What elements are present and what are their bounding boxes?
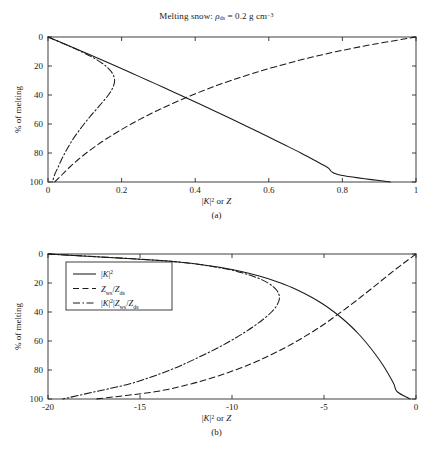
series-line-1 [55,37,416,182]
svg-text:1: 1 [414,185,419,195]
svg-text:-5: -5 [320,402,328,412]
svg-text:0: 0 [46,185,51,195]
svg-text:0: 0 [414,402,419,412]
svg-text:40: 40 [34,90,44,100]
panel-b-caption: (b) [0,427,433,437]
svg-text:60: 60 [34,119,44,129]
series-line-0 [48,37,390,182]
svg-text:40: 40 [34,307,44,317]
svg-text:20: 20 [34,61,44,71]
svg-text:0: 0 [39,249,44,259]
svg-text:-20: -20 [42,402,54,412]
panel-b-plot: -20-15-10-50020406080100% of melting|K|2… [0,232,433,459]
panel-a-caption: (a) [0,210,433,220]
series-line-2 [48,37,115,182]
svg-text:60: 60 [34,336,44,346]
panel-a: Melting snow: ρds = 0.2 g cm−3 00.20.40.… [0,0,433,232]
svg-text:80: 80 [34,148,44,158]
svg-text:0.4: 0.4 [190,185,202,195]
svg-text:0.2: 0.2 [116,185,127,195]
legend: |K|2Zws/Zds|K|2|Zws/Zds [66,262,172,310]
svg-text:80: 80 [34,365,44,375]
panel-a-xaxis-label: |K|2 or Z [0,196,433,206]
svg-text:0: 0 [39,32,44,42]
svg-text:-10: -10 [226,402,238,412]
svg-text:0.6: 0.6 [263,185,275,195]
svg-text:0.8: 0.8 [337,185,349,195]
svg-text:100: 100 [30,394,44,404]
svg-text:20: 20 [34,278,44,288]
svg-text:% of melting: % of melting [13,86,23,133]
svg-text:-15: -15 [134,402,146,412]
svg-text:100: 100 [30,177,44,187]
svg-text:% of melting: % of melting [13,303,23,350]
figure-container: Melting snow: ρds = 0.2 g cm−3 00.20.40.… [0,0,433,459]
panel-b: -20-15-10-50020406080100% of melting|K|2… [0,232,433,459]
panel-b-xaxis-label: |K|2 or Z [0,413,433,423]
